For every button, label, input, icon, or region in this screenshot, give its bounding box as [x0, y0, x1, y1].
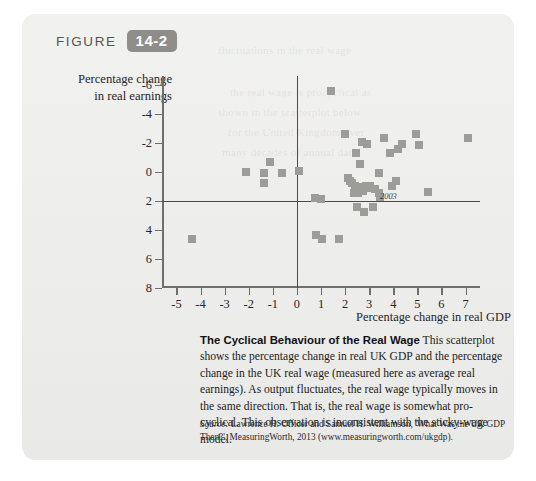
y-axis-title: Percentage change in real earnings	[54, 71, 172, 106]
data-point	[415, 141, 423, 149]
data-point	[295, 167, 303, 175]
figure-number-badge: 14-2	[127, 30, 177, 52]
data-point	[392, 177, 400, 185]
data-point	[278, 169, 286, 177]
y-tick-label: 2	[146, 193, 152, 208]
y-tick	[155, 172, 162, 173]
y-tick-label: 6	[146, 251, 152, 266]
figure-header: FIGURE 14-2	[56, 30, 177, 52]
y-tick	[155, 259, 162, 260]
data-point	[352, 149, 360, 157]
x-tick	[345, 288, 346, 295]
x-tick	[417, 288, 418, 295]
data-point	[398, 140, 406, 148]
y-tick-label: 0	[146, 164, 152, 179]
x-tick	[273, 288, 274, 295]
figure-page: fluctuations in the real wage the real w…	[0, 0, 536, 481]
data-point	[356, 160, 364, 168]
data-point	[335, 235, 343, 243]
data-point	[188, 235, 196, 243]
x-tick-label: 0	[294, 297, 300, 312]
x-tick-label: -2	[244, 297, 254, 312]
data-point	[386, 149, 394, 157]
x-tick	[176, 288, 177, 295]
x-tick	[466, 288, 467, 295]
data-point	[266, 158, 274, 166]
x-tick	[441, 288, 442, 295]
data-point	[327, 87, 335, 95]
x-tick	[225, 288, 226, 295]
figure-label: FIGURE	[56, 34, 117, 49]
data-point	[380, 134, 388, 142]
y-tick-label: -6	[142, 77, 152, 92]
y-tick	[155, 143, 162, 144]
data-point	[424, 188, 432, 196]
x-tick-label: 2	[342, 297, 348, 312]
x-tick	[393, 288, 394, 295]
data-point	[464, 134, 472, 142]
x-tick-label: 1	[318, 297, 324, 312]
source-text: Lawrence H. Officer and Samuel H. Willia…	[200, 419, 505, 442]
y-tick-label: 8	[146, 281, 152, 296]
zero-vertical-line	[297, 76, 298, 288]
figure-card: fluctuations in the real wage the real w…	[22, 14, 514, 460]
figure-source: Source: Lawrence H. Officer and Samuel H…	[200, 418, 510, 445]
x-tick	[201, 288, 202, 295]
y-tick-label: -4	[142, 106, 152, 121]
data-point	[341, 130, 349, 138]
data-point	[375, 169, 383, 177]
y-tick	[155, 85, 162, 86]
x-tick-label: -4	[195, 297, 205, 312]
data-point	[318, 235, 326, 243]
data-point	[260, 169, 268, 177]
y-tick-label: 4	[146, 222, 152, 237]
y-tick	[155, 114, 162, 115]
data-point	[260, 179, 268, 187]
x-tick-label: -3	[219, 297, 229, 312]
x-tick-label: -5	[171, 297, 181, 312]
data-point	[242, 168, 250, 176]
data-point	[317, 195, 325, 203]
y-axis-title-line2: in real earnings	[94, 89, 172, 103]
data-point	[363, 140, 371, 148]
data-point	[360, 208, 368, 216]
source-label: Source:	[200, 419, 229, 429]
scatter-plot: 86420-2-4-6-5-4-3-2-1012345672003	[162, 76, 480, 288]
y-tick-label: -2	[142, 135, 152, 150]
x-tick	[369, 288, 370, 295]
data-point	[369, 203, 377, 211]
x-axis-title: Percentage change in real GDP	[356, 310, 511, 325]
y-tick	[155, 201, 162, 202]
x-tick-label: -1	[268, 297, 278, 312]
x-tick	[249, 288, 250, 295]
x-tick	[321, 288, 322, 295]
y-tick	[155, 230, 162, 231]
x-tick	[297, 288, 298, 295]
y-tick	[155, 288, 162, 289]
caption-title: The Cyclical Behaviour of the Real Wage	[200, 334, 420, 346]
y-axis-line	[162, 76, 164, 288]
data-point	[412, 130, 420, 138]
point-annotation: 2003	[380, 191, 397, 200]
